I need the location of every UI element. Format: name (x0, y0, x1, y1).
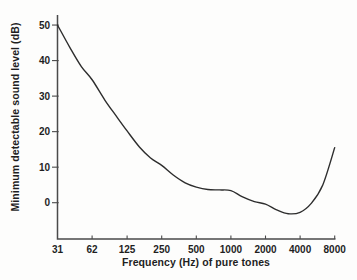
y-tick-label: 50 (39, 20, 51, 31)
chart-svg: 0102030405031621252505001000200040008000 (0, 0, 357, 280)
y-tick-label: 10 (39, 162, 51, 173)
threshold-of-hearing-figure: 0102030405031621252505001000200040008000… (0, 0, 357, 280)
threshold-curve (58, 25, 335, 214)
y-tick-label: 20 (39, 126, 51, 137)
x-tick-label: 8000 (324, 244, 347, 255)
y-tick-label: 0 (44, 197, 50, 208)
x-tick-label: 125 (119, 244, 136, 255)
x-tick-label: 2000 (254, 244, 277, 255)
x-axis-title: Frequency (Hz) of pure tones (57, 256, 335, 268)
x-tick-label: 62 (87, 244, 99, 255)
y-tick-label: 40 (39, 55, 51, 66)
axis-lines (58, 15, 336, 239)
x-tick-label: 500 (188, 244, 205, 255)
y-axis-title: Minimum detectable sound level (dB) (9, 2, 23, 232)
x-tick-label: 250 (153, 244, 170, 255)
y-tick-label: 30 (39, 91, 51, 102)
x-tick-label: 1000 (220, 244, 243, 255)
x-tick-label: 31 (52, 244, 64, 255)
x-tick-label: 4000 (289, 244, 312, 255)
